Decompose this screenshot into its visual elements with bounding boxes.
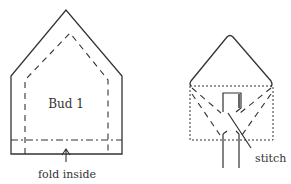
dotted-fold-outline bbox=[190, 86, 273, 140]
outer-cut-line bbox=[11, 10, 122, 154]
folded-bud bbox=[190, 36, 273, 169]
fold-inside-caption: fold inside bbox=[38, 168, 96, 181]
dashed-fold-lines bbox=[192, 88, 271, 135]
inner-seam-line bbox=[25, 33, 108, 154]
fold-arrow-icon bbox=[62, 149, 70, 162]
stitch-caption: stitch bbox=[255, 152, 286, 165]
bud-1-pattern bbox=[11, 10, 122, 162]
bud-1-label: Bud 1 bbox=[48, 97, 84, 111]
bud-pattern-diagram: Bud 1 fold inside stitch bbox=[0, 0, 291, 184]
stem-lines bbox=[223, 131, 239, 168]
folded-outline bbox=[190, 36, 272, 88]
